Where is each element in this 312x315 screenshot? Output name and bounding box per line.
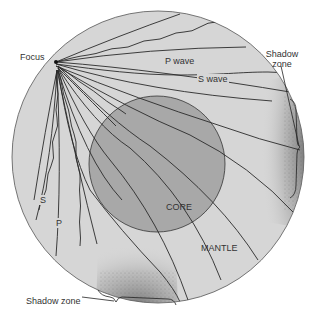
label-shadow-zone-right-line2: zone	[262, 59, 302, 69]
earth-diagram	[0, 0, 312, 315]
label-p: P	[55, 218, 63, 228]
label-s: S	[39, 195, 47, 205]
label-mantle: MANTLE	[201, 243, 238, 253]
label-s-wave: S wave	[197, 74, 229, 84]
label-shadow-zone-right: Shadow zone	[262, 49, 302, 69]
label-focus: Focus	[20, 52, 45, 62]
label-shadow-zone-right-line1: Shadow	[262, 49, 302, 59]
label-p-wave: P wave	[164, 56, 195, 66]
core	[89, 96, 225, 232]
label-shadow-zone-bottom: Shadow zone	[26, 296, 81, 306]
label-core: CORE	[166, 202, 192, 212]
focus-point	[54, 60, 58, 64]
